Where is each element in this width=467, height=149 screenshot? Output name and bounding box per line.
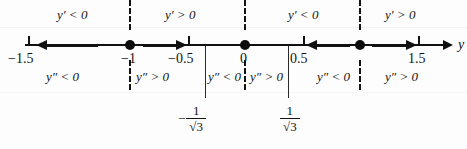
direction-arrow-right-interval-2 [143, 40, 187, 50]
arrowhead-right-icon [406, 40, 417, 50]
inflection-value-one-over-root-three: 1 √3 [279, 104, 300, 133]
divider-solid-at-neg-one-over-root-three [205, 46, 206, 98]
divider-dashed-at-minus-1-upper [129, 0, 131, 30]
axis-name-label: y [458, 38, 464, 52]
fraction-denominator: √3 [280, 118, 300, 133]
divider-dashed-at-1-upper [359, 0, 361, 30]
arrow-shaft [315, 44, 350, 47]
critical-point-dot-1 [355, 40, 365, 50]
first-derivative-label-interval-2: y′ > 0 [165, 8, 195, 21]
tick-label-1-5: 1.5 [408, 52, 426, 66]
first-derivative-label-interval-4: y′ > 0 [385, 8, 415, 21]
tick-label-0-5: 0.5 [290, 52, 308, 66]
second-derivative-label-segment-1: y″ < 0 [46, 70, 79, 83]
scan-artifact-line [0, 27, 467, 28]
fraction-stack: 1 √3 [186, 104, 206, 133]
direction-arrow-left-interval-3 [306, 40, 350, 50]
second-derivative-label-segment-6: y″ > 0 [385, 70, 418, 83]
first-derivative-label-interval-3: y′ < 0 [288, 8, 318, 21]
divider-solid-at-one-over-root-three [288, 46, 289, 98]
second-derivative-label-segment-2: y″ > 0 [136, 70, 169, 83]
tick-label-minus-0-5: −0.5 [168, 52, 193, 66]
tick-mark-minus-0-5 [188, 36, 190, 45]
second-derivative-label-segment-5: y″ < 0 [317, 70, 350, 83]
first-derivative-label-interval-1: y′ < 0 [57, 8, 87, 21]
direction-arrow-left-interval-1 [36, 40, 98, 50]
tick-mark-minus-1-5 [28, 36, 30, 45]
arrow-shaft [45, 44, 98, 47]
arrowhead-right-icon [176, 40, 187, 50]
critical-point-dot-minus-1 [125, 40, 135, 50]
fraction-numerator: 1 [190, 104, 203, 118]
arrow-shaft [143, 44, 178, 47]
tick-mark-0-5 [303, 36, 305, 45]
sign-chart-figure: y′ < 0 y′ > 0 y′ < 0 y′ > 0 y −1.5 −1 [0, 0, 467, 149]
fraction-stack: 1 √3 [280, 104, 300, 133]
divider-dashed-at-1-lower [359, 60, 361, 90]
tick-label-0: 0 [240, 52, 247, 66]
scan-artifact-line [0, 92, 467, 93]
axis-arrowhead-right-icon [443, 40, 453, 50]
tick-mark-1-5 [418, 36, 420, 45]
inflection-value-negative-one-over-root-three: − 1 √3 [178, 104, 206, 133]
fraction-sign: − [178, 112, 185, 125]
fraction-denominator: √3 [186, 118, 206, 133]
fraction-numerator: 1 [284, 104, 297, 118]
divider-dashed-at-0-upper [244, 0, 246, 30]
critical-point-dot-0 [240, 40, 250, 50]
second-derivative-label-segment-3: y″ < 0 [208, 70, 241, 83]
second-derivative-label-segment-4: y″ > 0 [250, 70, 283, 83]
arrow-shaft [372, 44, 408, 47]
direction-arrow-right-interval-4 [372, 40, 417, 50]
tick-label-minus-1: −1 [121, 52, 136, 66]
tick-label-minus-1-5: −1.5 [8, 52, 33, 66]
